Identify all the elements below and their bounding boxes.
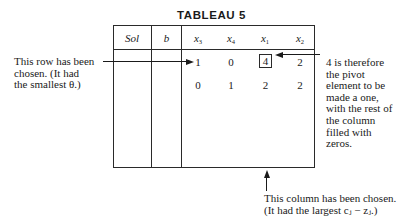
column-divider-sol-b <box>151 25 152 168</box>
header-b: b <box>152 31 181 45</box>
cell-r1-x2: 2 <box>294 55 306 69</box>
header-sol: Sol <box>113 31 151 45</box>
header-x2: x2 <box>289 31 311 49</box>
cell-r2-x3: 0 <box>192 78 204 92</box>
cell-r2-x2: 2 <box>294 78 306 92</box>
pivot-arrow-head-icon <box>275 52 283 58</box>
header-x1: x1 <box>254 31 276 49</box>
cell-r2-x1: 2 <box>259 78 272 92</box>
header-x3: x3 <box>187 31 209 49</box>
row-arrow-head-icon <box>186 59 194 65</box>
header-x4: x4 <box>220 31 242 49</box>
simplex-tableau <box>113 25 315 168</box>
tableau-title: TABLEAU 5 <box>0 9 417 21</box>
pivot-note: 4 is therefore the pivot element to be m… <box>326 57 392 150</box>
column-chosen-note: This column has been chosen. (It had the… <box>264 193 396 216</box>
cell-r1-x4: 0 <box>225 55 237 69</box>
pivot-element: 4 <box>259 54 272 68</box>
column-arrow-line <box>266 178 267 191</box>
pivot-arrow-line <box>282 54 320 55</box>
row-arrow-line <box>103 61 187 62</box>
row-chosen-note: This row has been chosen. (It had the sm… <box>14 56 94 91</box>
column-arrow-head-icon <box>264 170 270 178</box>
header-divider <box>113 49 315 50</box>
cell-r2-x4: 1 <box>225 78 237 92</box>
column-divider-b-vars <box>181 25 182 168</box>
